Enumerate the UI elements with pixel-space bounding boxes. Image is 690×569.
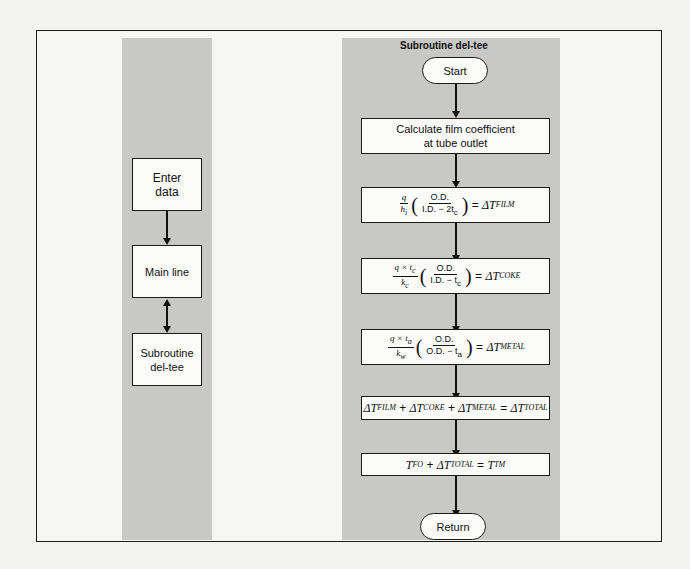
eq-frac-den-sub: c bbox=[457, 279, 461, 288]
term-sub: TM bbox=[494, 458, 505, 472]
eq-result-sub: COKE bbox=[499, 269, 520, 283]
eq-den-sub: w bbox=[400, 351, 405, 360]
arrow-enter-main bbox=[166, 211, 168, 241]
connector bbox=[455, 365, 457, 396]
term: ΔT bbox=[437, 458, 451, 472]
eq-frac-den: I.D. − t bbox=[430, 275, 457, 285]
term-sub: FO bbox=[412, 458, 423, 472]
eq-num: q bbox=[400, 192, 409, 204]
delta-t-film-box: qhi (O.D.I.D. − 2tc) = ΔTFILM bbox=[361, 187, 550, 223]
eq-result-sub: METAL bbox=[500, 340, 525, 354]
eq-frac-den: I.D. − 2t bbox=[422, 204, 454, 214]
eq-result: ΔT bbox=[482, 198, 496, 212]
connector bbox=[455, 154, 457, 184]
enter-data-label-2: data bbox=[155, 185, 178, 199]
eq-num-sub: a bbox=[408, 337, 412, 346]
arrow-head-down-icon bbox=[163, 238, 171, 245]
eq-num: q × t bbox=[395, 262, 413, 272]
main-line-label: Main line bbox=[145, 265, 189, 279]
start-terminal: Start bbox=[422, 57, 488, 84]
arrow-head-down-icon bbox=[452, 111, 460, 118]
eq-result: ΔT bbox=[486, 340, 500, 354]
delta-t-metal-box: q × takw (O.D.O.D. − ta) = ΔTMETAL bbox=[361, 329, 550, 365]
term-sub: FILM bbox=[377, 401, 396, 415]
connector bbox=[455, 294, 457, 329]
main-line-box: Main line bbox=[132, 245, 202, 298]
eq-den-sub: i bbox=[405, 208, 407, 217]
eq-result: ΔT bbox=[485, 269, 499, 283]
enter-data-label-1: Enter bbox=[153, 171, 182, 185]
term: ΔT bbox=[510, 401, 524, 415]
delta-t-total-box: ΔTFILM + ΔTCOKE + ΔTMETAL = ΔTTOTAL bbox=[361, 396, 550, 420]
term: ΔT bbox=[410, 401, 424, 415]
subroutine-box: Subroutine del-tee bbox=[132, 333, 202, 386]
term-sub: METAL bbox=[472, 401, 497, 415]
eq-frac-num: O.D. bbox=[434, 263, 457, 275]
calc-film-coefficient-box: Calculate film coefficient at tube outle… bbox=[361, 118, 550, 154]
term-sub: TOTAL bbox=[450, 458, 473, 472]
enter-data-box: Enter data bbox=[132, 158, 202, 211]
arrow-head-down-icon bbox=[163, 326, 171, 333]
eq-frac-den-sub: a bbox=[458, 350, 462, 359]
term: ΔT bbox=[458, 401, 472, 415]
return-terminal: Return bbox=[420, 513, 486, 540]
subroutine-label-2: del-tee bbox=[150, 360, 184, 374]
connector bbox=[455, 84, 457, 114]
calc-label-1: Calculate film coefficient bbox=[396, 122, 514, 136]
eq-den-sub: c bbox=[405, 280, 409, 289]
eq-result-sub: FILM bbox=[496, 198, 515, 212]
term: ΔT bbox=[364, 401, 378, 415]
eq-num-sub: c bbox=[412, 266, 416, 275]
delta-t-coke-box: q × tckc (O.D.I.D. − tc) = ΔTCOKE bbox=[361, 258, 550, 294]
connector bbox=[455, 476, 457, 513]
term-sub: TOTAL bbox=[524, 401, 547, 415]
eq-frac-num: O.D. bbox=[429, 192, 452, 204]
eq-frac-den-sub: c bbox=[454, 208, 458, 217]
term: T bbox=[487, 458, 494, 472]
return-label: Return bbox=[436, 520, 469, 534]
eq-frac-den: O.D. − t bbox=[426, 346, 457, 356]
term-sub: COKE bbox=[423, 401, 444, 415]
calc-label-2: at tube outlet bbox=[424, 136, 488, 150]
subroutine-label-1: Subroutine bbox=[140, 346, 193, 360]
connector bbox=[455, 223, 457, 258]
eq-frac-num: O.D. bbox=[433, 334, 456, 346]
tube-metal-temp-box: TFO + ΔTTOTAL = TTM bbox=[361, 453, 550, 476]
start-label: Start bbox=[443, 64, 466, 78]
eq-num: q × t bbox=[390, 333, 408, 343]
subroutine-title: Subroutine del-tee bbox=[400, 40, 488, 51]
connector bbox=[455, 420, 457, 453]
